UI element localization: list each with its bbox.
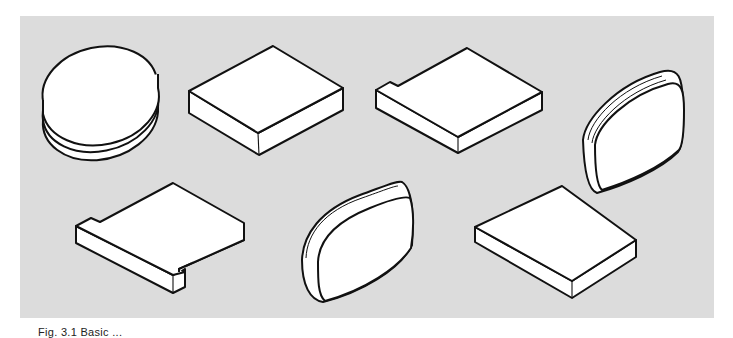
figure-caption: Fig. 3.1 Basic ... [38, 326, 122, 338]
flat-square-shape [475, 186, 636, 298]
oval-disc-shape [34, 36, 165, 160]
notched-block-shape [376, 48, 542, 153]
stepped-slab-shape [76, 183, 244, 293]
cushion-upright-shape [583, 71, 684, 193]
cushion-tilted-shape [302, 182, 413, 302]
square-block-shape [189, 46, 343, 155]
